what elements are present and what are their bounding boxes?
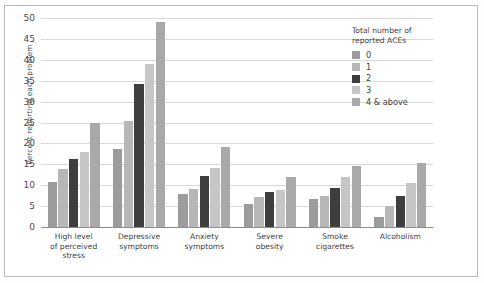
y-tick-label: 20 bbox=[9, 139, 35, 148]
x-tick-label: Alcoholism bbox=[368, 232, 433, 242]
legend-label: 2 bbox=[366, 74, 371, 82]
legend-item: 3 bbox=[352, 84, 462, 96]
bar bbox=[309, 199, 319, 227]
legend-label: 3 bbox=[366, 86, 371, 94]
bar-group bbox=[106, 18, 171, 227]
y-tick-label: 10 bbox=[9, 181, 35, 190]
legend-item: 4 & above bbox=[352, 96, 462, 108]
bar bbox=[320, 196, 330, 227]
bar bbox=[80, 152, 90, 227]
bar bbox=[330, 188, 340, 227]
y-tick-label: 15 bbox=[9, 160, 35, 169]
bar bbox=[178, 194, 188, 227]
bar bbox=[69, 159, 79, 227]
legend-item: 2 bbox=[352, 73, 462, 85]
bar bbox=[189, 189, 199, 227]
bar bbox=[406, 183, 416, 227]
legend-label: 0 bbox=[366, 51, 371, 59]
bar bbox=[244, 204, 254, 227]
x-tick-label: Smoke cigarettes bbox=[302, 232, 367, 251]
bar bbox=[124, 121, 134, 227]
x-tick-label: High level of perceived stress bbox=[41, 232, 106, 261]
chart-figure: Percent reporting each problem 051015202… bbox=[0, 0, 484, 283]
legend: Total number of reported ACEs 01234 & ab… bbox=[352, 26, 462, 108]
bar-group bbox=[172, 18, 237, 227]
bar bbox=[200, 176, 210, 227]
x-axis-line bbox=[41, 227, 433, 228]
legend-label: 4 & above bbox=[366, 98, 408, 106]
y-tick-label: 25 bbox=[9, 119, 35, 128]
y-tick-label: 35 bbox=[9, 77, 35, 86]
y-tick-label: 0 bbox=[9, 223, 35, 232]
bar bbox=[417, 163, 427, 227]
y-tick-label: 5 bbox=[9, 202, 35, 211]
bar bbox=[396, 196, 406, 227]
y-tick-label: 30 bbox=[9, 98, 35, 107]
legend-swatch-icon bbox=[352, 51, 360, 59]
legend-title: Total number of reported ACEs bbox=[352, 26, 462, 46]
x-tick-label: Anxiety symptoms bbox=[172, 232, 237, 251]
legend-swatch-icon bbox=[352, 63, 360, 71]
bar bbox=[58, 169, 68, 227]
legend-item: 1 bbox=[352, 61, 462, 73]
bar bbox=[145, 64, 155, 227]
bar bbox=[286, 177, 296, 227]
bar bbox=[374, 217, 384, 227]
legend-swatch-icon bbox=[352, 86, 360, 94]
legend-swatch-icon bbox=[352, 98, 360, 106]
bar bbox=[134, 84, 144, 227]
bar-group bbox=[41, 18, 106, 227]
bar bbox=[385, 206, 395, 227]
bar bbox=[265, 192, 275, 227]
bar-group bbox=[237, 18, 302, 227]
legend-label: 1 bbox=[366, 63, 371, 71]
bar bbox=[352, 166, 362, 227]
legend-item: 0 bbox=[352, 50, 462, 62]
x-tick-label: Depressive symptoms bbox=[106, 232, 171, 251]
bar bbox=[90, 123, 100, 228]
bar bbox=[276, 190, 286, 227]
bar bbox=[210, 168, 220, 227]
bar bbox=[254, 197, 264, 228]
y-tick-label: 40 bbox=[9, 56, 35, 65]
bar bbox=[341, 177, 351, 227]
bar bbox=[113, 149, 123, 227]
y-tick-label: 45 bbox=[9, 35, 35, 44]
y-tick-label: 50 bbox=[9, 14, 35, 23]
bar bbox=[221, 147, 231, 227]
bar bbox=[156, 22, 166, 227]
x-tick-label: Severe obesity bbox=[237, 232, 302, 251]
legend-items: 01234 & above bbox=[352, 50, 462, 108]
bar bbox=[48, 182, 58, 227]
legend-swatch-icon bbox=[352, 75, 360, 83]
